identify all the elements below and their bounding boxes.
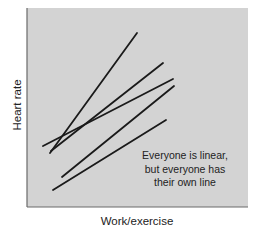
annotation: Everyone is linear, but everyone has the…: [134, 149, 236, 190]
annotation-line-1: Everyone is linear,: [134, 149, 236, 163]
chart: [0, 0, 260, 236]
x-axis-label: Work/exercise: [101, 215, 174, 227]
annotation-line-3: their own line: [134, 176, 236, 190]
y-axis-label: Heart rate: [11, 79, 23, 130]
annotation-line-2: but everyone has: [134, 163, 236, 177]
